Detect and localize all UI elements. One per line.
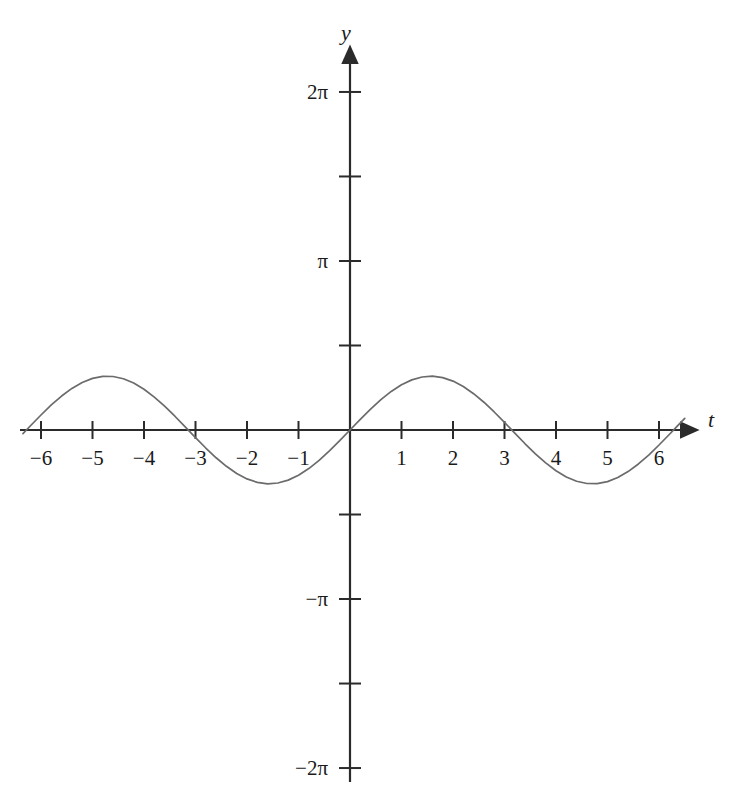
x-axis-tick-label: 5 (602, 448, 613, 469)
y-axis-tick-label: π (317, 250, 328, 271)
x-axis-tick-label: −1 (287, 448, 309, 469)
y-axis-tick-label: 2π (307, 81, 328, 102)
x-axis-tick-label: −5 (81, 448, 103, 469)
x-axis-tick-label: −2 (236, 448, 258, 469)
x-axis-tick-label: −6 (30, 448, 52, 469)
plot-canvas (0, 0, 746, 802)
x-axis-tick-label: −3 (184, 448, 206, 469)
y-axis-label: y (341, 22, 351, 44)
y-axis-tick-label: −2π (295, 758, 328, 779)
y-axis-tick-label: −π (306, 589, 328, 610)
x-axis-tick-label: 2 (448, 448, 459, 469)
x-axis-tick-label: 1 (396, 448, 407, 469)
x-axis-tick-label: −4 (133, 448, 155, 469)
graph-figure: −6−5−4−3−2−1123456 2ππ−π−2π y t (0, 0, 746, 802)
x-axis-tick-label: 6 (654, 448, 665, 469)
x-axis-tick-label: 4 (551, 448, 562, 469)
x-axis-tick-label: 3 (499, 448, 510, 469)
x-axis-label: t (708, 409, 714, 431)
